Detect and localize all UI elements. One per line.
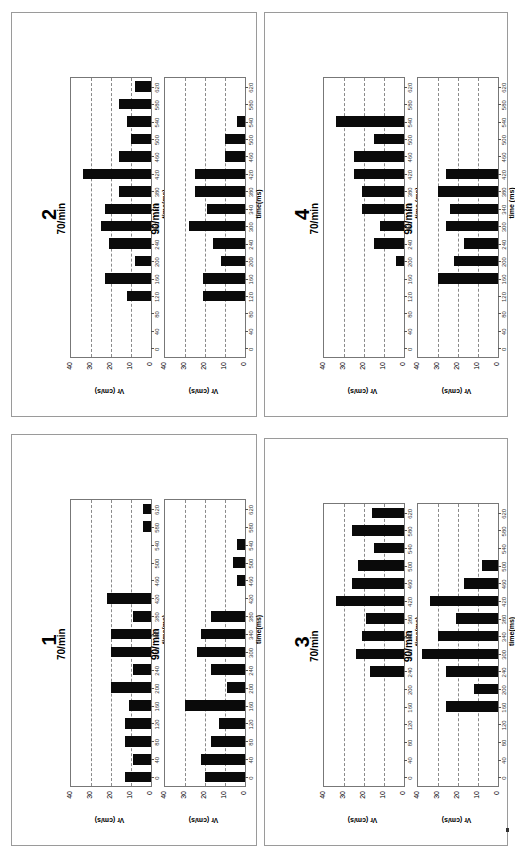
x-tick-label: 340 [248,625,254,645]
gridline [478,78,479,357]
y-tick-label: 40 [413,791,420,807]
x-tick-label: 500 [248,130,254,150]
x-tick-label: 620 [501,504,507,524]
x-tick-label: 420 [248,165,254,185]
bar [211,664,245,675]
x-tick-label: 0 [248,768,254,788]
x-tick-label: 0 [248,339,254,359]
bar [438,631,498,642]
plot-area [164,499,246,787]
bar [446,701,498,712]
x-tick-label: 380 [501,182,507,202]
bar [237,539,245,550]
x-tick-label: 0 [501,339,507,359]
x-tick-label: 300 [248,217,254,237]
x-tick-label: 300 [501,645,507,665]
y-tick-label: 20 [200,791,207,807]
gridline [205,500,206,786]
bar [446,666,498,677]
x-tick-label: 120 [501,715,507,735]
y-tick-label: 10 [220,791,227,807]
x-tick-label: 580 [248,518,254,538]
bar-chart-90-per-min: 90/min0408012016020024030034038042046050… [12,13,256,416]
x-tick-label: 380 [501,610,507,630]
x-tick-label: 500 [248,554,254,574]
bar [438,186,498,196]
x-tick-label: 460 [501,574,507,594]
x-tick-label: 120 [248,714,254,734]
x-tick-label: 200 [501,252,507,272]
panel-rotated-content: 170/min040801201602002403003403804204605… [12,435,256,845]
x-tick-label: 420 [501,165,507,185]
x-tick-label: 620 [248,78,254,98]
bar [189,221,245,231]
x-tick-label: 80 [248,304,254,324]
figure-panel-4: 470/min040801201602002403003403804204605… [264,12,508,417]
bar [225,151,245,161]
x-tick-label: 540 [248,536,254,556]
plot-area [164,77,246,358]
x-tick-label: 620 [248,500,254,520]
bar [482,560,498,571]
x-tick-label: 160 [248,270,254,290]
bar [207,204,245,214]
figure-panel-2: 270/min040801201602002403003403804204605… [11,12,257,417]
bar [464,578,498,589]
x-tick-label: 240 [501,662,507,682]
x-tick-label: 500 [501,557,507,577]
gridline [205,78,206,357]
panel-rotated-content: 370/min040801201602002403003403804204605… [265,439,507,845]
gridline [438,504,439,786]
bar [195,169,245,179]
x-axis-label: time (ms) [508,187,515,218]
x-tick-label: 160 [501,270,507,290]
bar [221,256,245,266]
x-tick-label: 0 [501,768,507,788]
x-tick-label: 80 [501,304,507,324]
x-tick-label: 540 [248,113,254,133]
y-tick-label: 10 [473,791,480,807]
x-tick-label: 300 [501,217,507,237]
bar [430,596,498,607]
x-tick-label: 200 [248,679,254,699]
plot-area [417,503,499,787]
x-tick-label: 380 [248,607,254,627]
bar-chart-90-per-min: 90/min0408012016020024030034038042046050… [12,435,256,845]
gridline [185,78,186,357]
y-tick-label: 30 [433,791,440,807]
x-tick-label: 40 [248,322,254,342]
x-tick-label: 160 [501,698,507,718]
bar [211,736,245,747]
gridline [458,78,459,357]
x-axis-label: time(ms) [255,615,262,644]
x-tick-label: 200 [248,252,254,272]
x-tick-label: 620 [501,78,507,98]
x-tick-label: 420 [501,592,507,612]
bar [464,238,498,248]
panel-rotated-content: 470/min040801201602002403003403804204605… [265,13,507,416]
y-tick-label: 40 [160,791,167,807]
y-axis-label: Vr (cm/s) [189,388,219,395]
x-tick-label: 460 [248,147,254,167]
bar [422,649,498,660]
bar [233,557,245,568]
x-tick-label: 160 [248,697,254,717]
y-tick-label: 20 [453,362,460,378]
chart-title: 90/min [150,203,161,235]
x-tick-label: 580 [248,95,254,115]
y-tick-label: 40 [160,362,167,378]
x-tick-label: 40 [501,751,507,771]
bar [211,611,245,622]
bar [201,754,245,765]
bar [237,116,245,126]
x-tick-label: 300 [248,643,254,663]
gridline [478,504,479,786]
figure-panel-1: 170/min040801201602002403003403804204605… [11,434,257,846]
x-axis-label: time(ms) [508,617,515,646]
x-tick-label: 200 [501,680,507,700]
plot-area [417,77,499,358]
x-tick-label: 340 [501,627,507,647]
bar-chart-90-per-min: 90/min0408012016020024030034038042046050… [265,439,507,845]
x-tick-label: 240 [248,661,254,681]
gridline [225,78,226,357]
